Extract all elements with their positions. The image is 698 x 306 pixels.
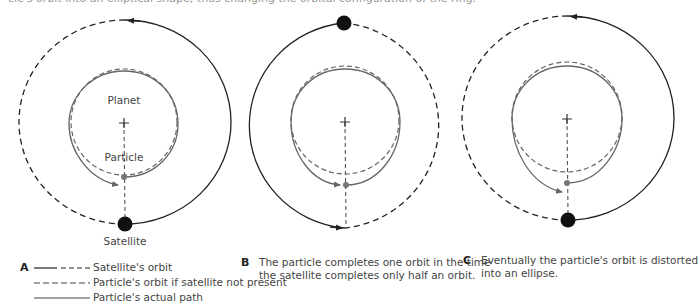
panel-a: Planet Particle Satellite [19,20,231,247]
panel-a-legend: A Satellite's orbit Particle's orbit if … [20,261,250,306]
legend-label: Satellite's orbit [93,261,172,274]
panel-c [462,16,674,228]
particle-dot [343,182,349,188]
caption-line-2: the satellite completes only half an orb… [259,269,475,282]
panel-b-caption: B The particle completes one orbit in th… [241,256,461,286]
caption-line-2: into an ellipse. [481,267,558,280]
caption-line-1: The particle completes one orbit in the … [259,256,491,269]
satellite-orbit-dashed [19,20,125,224]
planet-label: Planet [108,94,141,106]
satellite-dot [118,217,133,232]
satellite-orbit-solid [568,16,674,220]
alignment-line [124,123,125,218]
satellite-dot [561,213,576,228]
particle-label: Particle [105,151,144,163]
planet-marker-icon [119,118,129,128]
planet-marker-icon [562,114,572,124]
panel-letter-b: B [241,256,249,269]
legend-swatch-solid [33,294,91,302]
satellite-direction-arrow [571,17,582,18]
caption-line-1: Eventually the particle's orbit is disto… [481,254,698,267]
legend-label: Particle's actual path [93,291,203,304]
particle-dot [121,174,127,180]
satellite-orbit-dashed [344,23,439,228]
alignment-line [345,122,346,226]
alignment-line [567,119,568,214]
panel-b [249,16,438,229]
satellite-dot [337,16,352,31]
satellite-direction-arrow [128,21,140,22]
satellite-label: Satellite [103,235,146,247]
legend-swatch-dashed [33,279,91,287]
particle-dot [564,180,570,186]
panel-letter-a: A [20,261,29,274]
panel-letter-c: C [463,254,471,267]
legend-swatch-mixed [33,264,91,272]
panel-c-caption: C Eventually the particle's orbit is dis… [463,254,683,284]
planet-marker-icon [340,117,350,127]
satellite-orbit-solid [249,23,344,228]
